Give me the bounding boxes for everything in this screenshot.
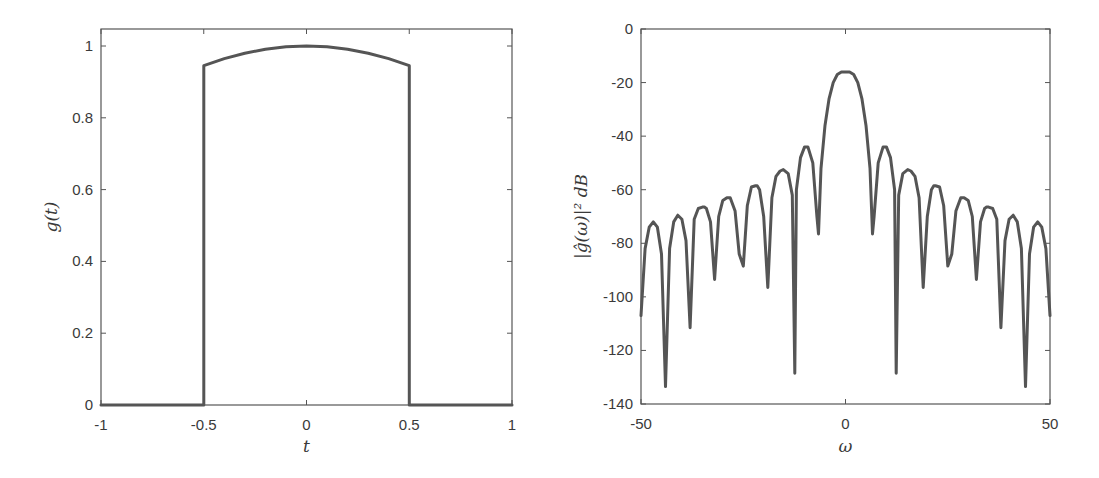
y-tick-label: -60 — [611, 181, 633, 198]
y-tick-label: 0.8 — [72, 109, 93, 126]
axes-frame — [101, 29, 512, 405]
y-tick-label: -80 — [611, 234, 633, 251]
spectrum-chart: -500500-20-40-60-80-100-120-140ω|ĝ(ω)|² … — [571, 20, 1058, 456]
x-tick-label: -0.5 — [191, 416, 217, 433]
x-axis-label: t — [303, 436, 310, 456]
y-tick-label: 1 — [85, 37, 93, 54]
y-axis-label: |ĝ(ω)|² dB — [571, 174, 591, 259]
y-tick-label: 0 — [625, 20, 633, 37]
series-line — [641, 72, 1050, 387]
y-tick-label: -100 — [603, 288, 633, 305]
x-tick-label: 1 — [508, 416, 516, 433]
y-tick-label: 0.4 — [72, 252, 93, 269]
y-tick-label: 0 — [85, 396, 93, 413]
x-axis-label: ω — [839, 436, 853, 456]
y-tick-label: 0.6 — [72, 181, 93, 198]
x-tick-label: 50 — [1042, 415, 1059, 432]
x-tick-label: 0 — [302, 416, 310, 433]
y-tick-label: 0.2 — [72, 324, 93, 341]
time-domain-chart: -1-0.500.5100.20.40.60.81tg(t) — [41, 29, 516, 456]
x-tick-label: 0.5 — [399, 416, 420, 433]
figure: -1-0.500.5100.20.40.60.81tg(t) -500500-2… — [0, 0, 1099, 478]
y-axis-label: g(t) — [41, 202, 61, 233]
y-tick-label: -140 — [603, 395, 633, 412]
x-tick-label: -50 — [630, 415, 652, 432]
y-tick-label: -20 — [611, 74, 633, 91]
series-line — [101, 46, 512, 405]
y-tick-label: -40 — [611, 127, 633, 144]
x-tick-label: 0 — [841, 415, 849, 432]
x-tick-label: -1 — [94, 416, 107, 433]
y-tick-label: -120 — [603, 341, 633, 358]
axes-frame — [641, 29, 1050, 404]
